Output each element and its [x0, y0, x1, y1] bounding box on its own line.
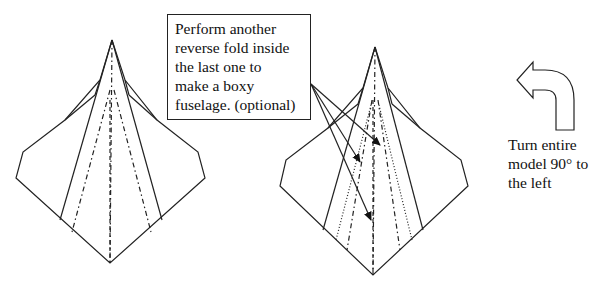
instruction-line: the left	[508, 173, 588, 192]
curved-arrow-left-icon	[517, 62, 574, 130]
right-fuselage-edge-l	[323, 47, 375, 230]
instruction-line: Turn entire	[508, 135, 588, 154]
right-wing-fold-r	[392, 104, 420, 128]
callout-box: Perform another reverse fold inside the …	[167, 14, 311, 120]
callout-line: the last one to	[175, 57, 303, 76]
callout-arrow-3	[311, 84, 371, 220]
right-fuselage-edge-r	[375, 47, 423, 230]
left-fuselage-edge-r	[112, 40, 162, 220]
callout-line: make a boxy	[175, 76, 303, 95]
callout-line: fuselage. (optional)	[175, 95, 303, 114]
callout-arrow-2	[311, 84, 360, 162]
callout-line: reverse fold inside	[175, 38, 303, 57]
callout-line: Perform another	[175, 19, 303, 38]
right-hidden-fold-l	[336, 105, 371, 240]
left-fuselage-edge-l	[60, 40, 112, 220]
instruction-line: model 90° to	[508, 154, 588, 173]
turn-instruction: Turn entire model 90° to the left	[508, 135, 588, 192]
